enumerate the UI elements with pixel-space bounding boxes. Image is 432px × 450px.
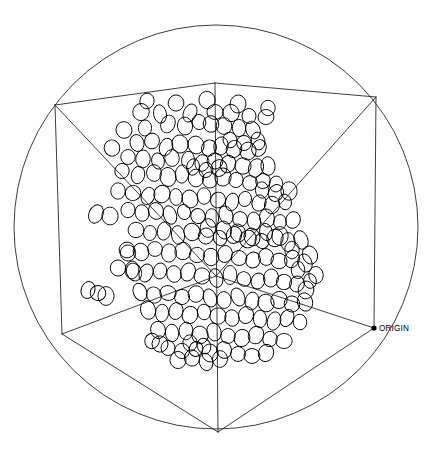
data-point [86, 202, 107, 225]
data-point [120, 149, 135, 165]
data-point [257, 109, 274, 126]
data-point [127, 221, 145, 239]
data-point [150, 152, 166, 170]
data-point [109, 259, 126, 277]
data-point [237, 190, 253, 208]
data-point [228, 286, 247, 308]
data-point [135, 150, 151, 169]
cube-edge-top-left [55, 83, 215, 105]
data-point [147, 241, 163, 257]
data-point [134, 204, 151, 223]
cube-edge-vertical-center [215, 83, 218, 432]
cube-wireframe [55, 83, 376, 432]
data-point [98, 286, 114, 305]
data-point [79, 280, 98, 301]
data-point [120, 201, 136, 218]
data-point-markers [79, 90, 324, 372]
data-point [189, 247, 205, 263]
data-point [143, 132, 161, 151]
origin-label: ORIGIN [379, 324, 409, 333]
data-point [159, 166, 178, 187]
data-point [166, 265, 183, 284]
data-point [253, 310, 266, 328]
data-point [196, 303, 211, 320]
data-point [224, 192, 241, 213]
data-point [152, 104, 168, 125]
data-point [280, 181, 297, 201]
data-point [188, 169, 204, 187]
cube-edge-mid-left [62, 276, 216, 334]
data-point [176, 203, 193, 221]
data-point [300, 244, 320, 266]
data-point [216, 244, 234, 264]
data-point [241, 174, 259, 192]
cube-edge-vertical-right [374, 97, 376, 328]
cube-edge-bottom-right [218, 328, 374, 432]
data-point [182, 334, 197, 351]
data-point [291, 229, 310, 252]
data-point [161, 204, 179, 226]
data-point [158, 113, 178, 135]
data-point [275, 333, 292, 349]
data-point [194, 268, 210, 285]
cube-edge-vertical-left [55, 105, 62, 334]
data-point [198, 90, 217, 110]
data-point [164, 149, 180, 167]
scatter-plot-figure: ORIGIN [0, 0, 432, 450]
data-point [249, 137, 268, 158]
data-point [216, 291, 232, 309]
data-point [197, 187, 211, 204]
data-point [273, 214, 286, 229]
data-point [247, 211, 262, 230]
data-point [123, 183, 143, 203]
data-point [201, 343, 220, 363]
data-point [260, 156, 276, 176]
origin-point-marker [371, 325, 376, 330]
data-point [136, 262, 155, 284]
data-point [237, 305, 256, 325]
data-point [166, 93, 185, 112]
data-point [189, 206, 208, 225]
data-point [143, 225, 157, 241]
data-point [212, 350, 228, 368]
plot-canvas: ORIGIN [0, 0, 432, 450]
data-point [138, 92, 155, 110]
data-point [176, 116, 193, 136]
data-point [111, 183, 126, 200]
data-point [150, 334, 171, 355]
data-point [179, 322, 194, 340]
data-point [221, 131, 238, 150]
data-point [187, 284, 206, 303]
data-point [169, 188, 183, 206]
data-point [161, 244, 177, 263]
data-point [130, 101, 152, 123]
data-point [223, 265, 237, 284]
data-point [101, 207, 118, 226]
data-point [292, 313, 307, 330]
data-point [208, 190, 228, 211]
data-point [155, 304, 169, 322]
data-point [186, 134, 207, 156]
data-point [185, 158, 201, 177]
data-point [102, 138, 122, 159]
data-point [139, 299, 158, 321]
data-point [269, 289, 290, 311]
data-point [255, 181, 269, 198]
data-point [175, 164, 190, 183]
data-point [152, 262, 168, 280]
